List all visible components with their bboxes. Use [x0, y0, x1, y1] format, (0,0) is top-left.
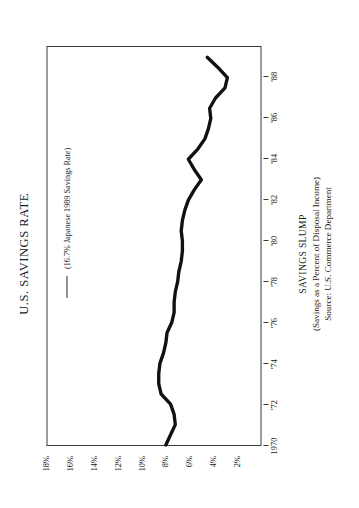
x-tick-label: '88: [269, 72, 278, 82]
x-tick-label: '80: [269, 236, 278, 246]
plot-area: [46, 46, 261, 446]
x-tick-label: '82: [269, 195, 278, 205]
plot-inner: [47, 47, 260, 445]
y-axis: 18%16%14%12%10%8%6%4%2%: [46, 448, 261, 508]
legend-label: (16.7% Japanese 1989 Savings Rate): [62, 148, 71, 269]
y-tick-label: 18%: [42, 456, 51, 471]
y-tick-label: 6%: [185, 456, 194, 467]
caption-subtitle: (Savings as a Percent of Disposal Income…: [309, 0, 321, 508]
x-tick-mark: [263, 322, 268, 323]
caption-block: SAVINGS SLUMP (Savings as a Percent of D…: [296, 0, 333, 508]
x-tick-label: '74: [269, 359, 278, 369]
chart-screenshot: U.S. SAVINGS RATE (16.7% Japanese 1989 S…: [0, 0, 359, 508]
y-tick-label: 10%: [137, 456, 146, 471]
x-tick-mark: [263, 76, 268, 77]
chart-figure: U.S. SAVINGS RATE (16.7% Japanese 1989 S…: [0, 0, 359, 508]
y-tick-label: 14%: [89, 456, 98, 471]
legend: (16.7% Japanese 1989 Savings Rate): [62, 148, 71, 298]
y-tick-label: 2%: [233, 456, 242, 467]
x-tick-label: '72: [269, 400, 278, 410]
x-tick-label: '84: [269, 154, 278, 164]
x-tick-mark: [263, 240, 268, 241]
legend-dash-icon: [66, 276, 67, 298]
x-tick-label: '78: [269, 277, 278, 287]
caption-source: Source: U.S. Commerce Department: [321, 0, 333, 508]
y-tick-label: 16%: [65, 456, 74, 471]
x-tick-label: 1970: [269, 438, 278, 455]
x-tick-mark: [263, 199, 268, 200]
x-tick-mark: [263, 404, 268, 405]
x-axis: 1970'72'74'76'78'80'82'84'86'88: [263, 46, 279, 446]
x-tick-mark: [263, 445, 268, 446]
savings-rate-line-chart: [47, 47, 260, 445]
x-tick-mark: [263, 158, 268, 159]
x-tick-mark: [263, 117, 268, 118]
x-tick-label: '76: [269, 318, 278, 328]
chart-title: U.S. SAVINGS RATE: [16, 0, 31, 508]
x-tick-mark: [263, 281, 268, 282]
y-tick-label: 12%: [113, 456, 122, 471]
x-tick-mark: [263, 363, 268, 364]
x-tick-label: '86: [269, 113, 278, 123]
caption-title: SAVINGS SLUMP: [296, 0, 309, 508]
savings-rate-line: [158, 57, 227, 445]
y-tick-label: 8%: [161, 456, 170, 467]
y-tick-label: 4%: [209, 456, 218, 467]
